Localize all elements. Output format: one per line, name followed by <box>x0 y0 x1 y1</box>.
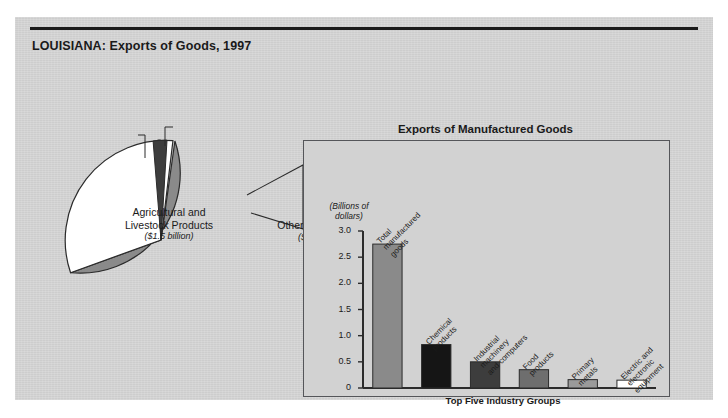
pie-label-agricultural-amount: ($1.5 billion) <box>89 231 249 242</box>
y-tick-label: 1.5 <box>325 304 351 314</box>
y-tick-label: 0.5 <box>325 356 351 366</box>
page-title: LOUISIANA: Exports of Goods, 1997 <box>32 39 251 53</box>
bracket-caption: Top Five Industry Groups <box>428 395 578 406</box>
pie-chart: Agricultural and Livestock Products ($1.… <box>33 122 303 362</box>
y-tick-label: 3.0 <box>325 225 351 235</box>
y-tick-label: 2.0 <box>325 277 351 287</box>
y-tick-label: 1.0 <box>325 330 351 340</box>
y-tick-label: 2.5 <box>325 251 351 261</box>
bar-chart-title: Exports of Manufactured Goods <box>303 123 668 135</box>
figure-panel: LOUISIANA: Exports of Goods, 1997 Agricu… <box>15 17 713 400</box>
pie-label-agricultural-line1: Agricultural and <box>133 206 206 218</box>
bar-series <box>373 244 646 388</box>
bar-1 <box>373 244 402 388</box>
bar-chart-panel: (Billions of dollars) Totalmanufacturedg… <box>303 140 670 397</box>
pie-label-agricultural: Agricultural and Livestock Products ($1.… <box>89 206 249 242</box>
y-tick-label: 0 <box>325 382 351 392</box>
pie-label-agricultural-line2: Livestock Products <box>125 219 213 231</box>
title-divider <box>30 27 698 30</box>
